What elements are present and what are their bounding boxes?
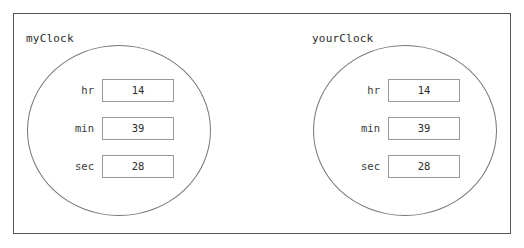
field-input-hr[interactable]: 14: [388, 79, 460, 102]
clock-field-list: hr 14 min 39 sec 28: [348, 78, 508, 178]
field-row-sec: sec 28: [348, 154, 508, 178]
field-input-min[interactable]: 39: [388, 117, 460, 140]
field-input-sec[interactable]: 28: [388, 155, 460, 178]
field-value-sec: 28: [418, 160, 431, 172]
field-row-sec: sec 28: [62, 154, 222, 178]
clock-field-list: hr 14 min 39 sec 28: [62, 78, 222, 178]
clock-group-myclock: myClock hr 14 min 39 sec: [22, 14, 222, 235]
field-input-hr[interactable]: 14: [102, 79, 174, 102]
field-value-min: 39: [132, 122, 145, 134]
panel-frame: myClock hr 14 min 39 sec: [13, 13, 511, 234]
field-row-min: min 39: [348, 116, 508, 140]
field-value-min: 39: [418, 122, 431, 134]
clock-group-yourclock: yourClock hr 14 min 39 sec: [308, 14, 508, 235]
clock-group-title: myClock: [26, 32, 74, 45]
field-label-min: min: [62, 122, 102, 134]
field-row-hr: hr 14: [348, 78, 508, 102]
field-label-hr: hr: [348, 84, 388, 96]
field-label-hr: hr: [62, 84, 102, 96]
field-row-min: min 39: [62, 116, 222, 140]
app-root: myClock hr 14 min 39 sec: [0, 0, 524, 248]
field-label-sec: sec: [62, 160, 102, 172]
field-input-min[interactable]: 39: [102, 117, 174, 140]
field-label-min: min: [348, 122, 388, 134]
field-value-hr: 14: [132, 84, 145, 96]
field-row-hr: hr 14: [62, 78, 222, 102]
field-value-sec: 28: [132, 160, 145, 172]
field-label-sec: sec: [348, 160, 388, 172]
clock-group-title: yourClock: [312, 32, 373, 45]
field-value-hr: 14: [418, 84, 431, 96]
field-input-sec[interactable]: 28: [102, 155, 174, 178]
